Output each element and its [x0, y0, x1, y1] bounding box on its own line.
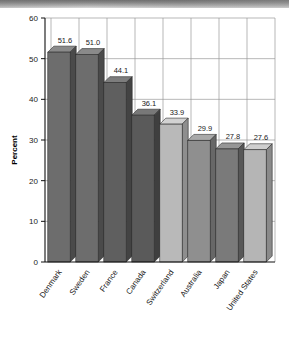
bar-front-face [216, 149, 238, 262]
bar-side-face [98, 49, 104, 262]
bars-group [48, 46, 272, 262]
bar-value-label: 33.9 [170, 108, 185, 117]
bar-front-face [76, 55, 98, 262]
y-tick-label: 30 [29, 136, 38, 145]
bar-denmark [48, 46, 76, 262]
category-label: Canada [124, 268, 148, 297]
bar-value-label: 51.0 [86, 38, 101, 47]
category-label: Denmark [38, 267, 65, 300]
category-label: Japan [212, 268, 232, 291]
bar-side-face [126, 77, 132, 262]
category-labels-group: DenmarkSwedenFranceCanadaSwitzerlandAust… [38, 267, 260, 312]
y-tick-label: 60 [29, 14, 38, 23]
y-tick-label: 20 [29, 177, 38, 186]
bar-side-face [70, 46, 76, 262]
bar-france [104, 77, 132, 262]
y-tick-label: 10 [29, 217, 38, 226]
y-tick-label: 0 [34, 258, 39, 267]
bar-switzerland [160, 118, 188, 262]
bar-value-label: 36.1 [142, 99, 157, 108]
category-label: Sweden [68, 268, 92, 297]
y-axis-title: Percent [10, 135, 19, 165]
category-label: Australia [178, 268, 204, 299]
bar-value-label: 29.9 [198, 124, 213, 133]
bar-chart-plot: 0102030405060 51.651.044.136.133.929.927… [0, 0, 289, 338]
category-label: Switzerland [145, 268, 176, 307]
bar-australia [188, 134, 216, 262]
bar-side-face [182, 118, 188, 262]
bar-front-face [188, 140, 210, 262]
y-tick-label: 40 [29, 95, 38, 104]
bar-japan [216, 143, 244, 262]
bar-front-face [244, 150, 266, 262]
bar-front-face [160, 124, 182, 262]
bar-canada [132, 109, 160, 262]
bar-front-face [48, 52, 70, 262]
bar-side-face [238, 143, 244, 262]
bar-value-label: 27.8 [226, 132, 241, 141]
bar-side-face [154, 109, 160, 262]
bar-front-face [132, 115, 154, 262]
bar-value-label: 27.6 [254, 133, 269, 142]
chart-container: 0102030405060 51.651.044.136.133.929.927… [0, 0, 289, 338]
bar-value-label: 44.1 [114, 66, 129, 75]
bar-united-states [244, 144, 272, 262]
y-tick-label: 50 [29, 55, 38, 64]
category-label: France [98, 268, 120, 294]
bar-sweden [76, 49, 104, 262]
bar-side-face [210, 134, 216, 262]
bar-side-face [266, 144, 272, 262]
bar-value-label: 51.6 [58, 36, 73, 45]
bar-front-face [104, 83, 126, 262]
